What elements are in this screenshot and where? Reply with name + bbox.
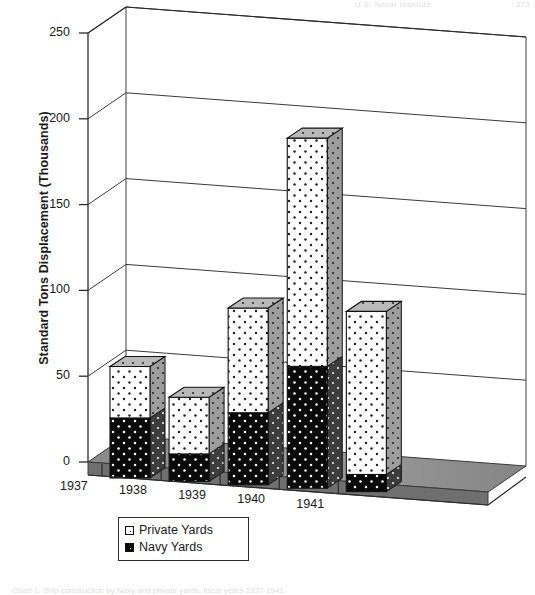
figure-caption: Chart 1: Ship construction by Navy and p… bbox=[12, 586, 442, 595]
legend-item-private-yards[interactable]: Private Yards bbox=[125, 522, 242, 539]
private-yards-segment bbox=[110, 366, 150, 417]
column-1939 bbox=[228, 298, 283, 485]
navy-yards-segment bbox=[110, 418, 150, 478]
x-tick-label-1940: 1940 bbox=[237, 492, 265, 506]
column-1940 bbox=[287, 128, 342, 488]
column-1937 bbox=[110, 356, 165, 478]
navy-yards-side bbox=[327, 356, 342, 488]
legend-item-navy-yards[interactable]: Navy Yards bbox=[125, 539, 242, 556]
navy-yards-side bbox=[150, 408, 165, 478]
legend-swatch-navy-yards-icon bbox=[125, 543, 134, 552]
private-yards-side bbox=[268, 298, 283, 413]
x-tick-label-1937: 1937 bbox=[60, 479, 88, 493]
private-yards-side bbox=[150, 356, 165, 417]
legend-label-navy-yards: Navy Yards bbox=[139, 541, 202, 554]
private-yards-segment bbox=[169, 397, 209, 454]
private-yards-side bbox=[209, 387, 224, 454]
private-yards-segment bbox=[346, 311, 386, 474]
chart-legend[interactable]: Private Yards Navy Yards bbox=[118, 517, 249, 561]
navy-yards-segment bbox=[346, 474, 386, 491]
navy-yards-side bbox=[268, 403, 283, 485]
private-yards-segment bbox=[228, 308, 268, 413]
column-1941 bbox=[346, 301, 401, 491]
column-1938 bbox=[169, 387, 224, 481]
navy-yards-segment bbox=[228, 413, 268, 485]
x-tick-label-1938: 1938 bbox=[119, 483, 147, 497]
x-tick-label-1939: 1939 bbox=[178, 488, 206, 502]
x-tick-label-1941: 1941 bbox=[296, 497, 324, 511]
y-tick-label-250: 250 bbox=[36, 26, 70, 38]
y-tick-label-150: 150 bbox=[36, 198, 70, 210]
legend-label-private-yards: Private Yards bbox=[139, 524, 213, 537]
legend-swatch-private-yards-icon bbox=[125, 526, 134, 535]
private-yards-side bbox=[327, 128, 342, 366]
y-tick-label-50: 50 bbox=[36, 369, 70, 381]
y-tick-label-200: 200 bbox=[36, 112, 70, 124]
navy-yards-segment bbox=[287, 366, 327, 488]
navy-yards-segment bbox=[169, 454, 209, 481]
y-tick-label-0: 0 bbox=[36, 455, 70, 467]
private-yards-side bbox=[386, 301, 401, 474]
private-yards-segment bbox=[287, 138, 327, 366]
y-tick-label-100: 100 bbox=[36, 283, 70, 295]
